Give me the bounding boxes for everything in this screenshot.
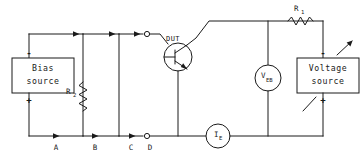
ie-label: I [214, 130, 219, 139]
arrow-bottom-b [92, 133, 99, 139]
bias-source-minus-sign: - [26, 48, 31, 58]
voltage-source-minus-sign: - [320, 48, 325, 58]
veb-subscript: EB [266, 77, 273, 83]
r1-label: R [294, 4, 299, 13]
arrow-top-2 [109, 31, 116, 37]
arrow-top-1 [73, 31, 80, 37]
bias-source-label-line2: source [26, 76, 59, 86]
circuit-schematic: DUT Bias source - + R 2 I E [0, 0, 362, 159]
arrow-bottom-c [129, 133, 136, 139]
dut-label: DUT [166, 35, 180, 43]
voltage-source-label-line1: Voltage [309, 63, 348, 73]
r2-label: R [66, 87, 71, 96]
wire-collector-to-top-rail [187, 21, 323, 45]
node-label-b: B [93, 143, 98, 152]
circuit-diagram-canvas: DUT Bias source - + R 2 I E [0, 0, 362, 159]
vsource-adjust-arrow-lower [303, 97, 316, 111]
terminal-d-bottom[interactable] [144, 133, 149, 138]
node-label-a: A [54, 143, 59, 152]
voltage-source-label-line2: source [311, 76, 344, 86]
r2-subscript: 2 [73, 92, 76, 98]
r1-subscript: 1 [301, 9, 304, 15]
bias-source-label-line1: Bias [32, 63, 54, 73]
node-label-d: D [148, 143, 153, 152]
arrow-top-3 [134, 31, 141, 37]
arrow-bottom-a [53, 133, 60, 139]
terminal-d-top[interactable] [144, 31, 149, 36]
node-label-c: C [129, 143, 134, 152]
